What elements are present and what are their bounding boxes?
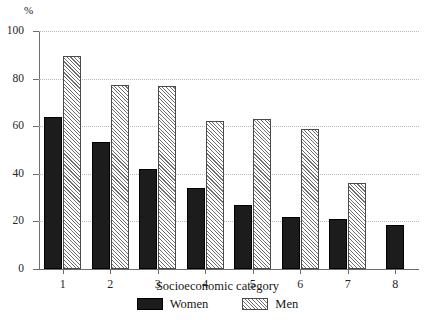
y-axis-tick-label: 60 [13, 119, 25, 132]
y-axis-tick: 60 [33, 126, 39, 127]
bar-women-7 [329, 219, 347, 269]
x-axis-tick [300, 269, 301, 274]
bar-women-6 [282, 217, 300, 269]
legend-swatch-men-icon [242, 298, 268, 310]
x-axis-tick [205, 269, 206, 274]
bar-women-3 [139, 169, 157, 269]
y-axis-tick: 20 [33, 221, 39, 222]
legend-label-men: Men [275, 297, 298, 311]
plot-area: 020406080100 12345678 [39, 31, 419, 270]
legend-entry-men: Men [242, 297, 298, 311]
bar-men-1 [63, 56, 81, 269]
x-axis-tick [110, 269, 111, 274]
bar-men-4 [206, 121, 224, 269]
bar-men-6 [301, 129, 319, 269]
x-axis-tick [63, 269, 64, 274]
x-axis-tick [253, 269, 254, 274]
bar-women-4 [187, 188, 205, 269]
bar-women-1 [44, 117, 62, 269]
chart-legend: Women Men [0, 297, 435, 311]
y-axis-tick: 80 [33, 79, 39, 80]
legend-swatch-women-icon [137, 298, 163, 310]
x-axis-tick [158, 269, 159, 274]
x-axis-tick [395, 269, 396, 274]
gridline [39, 31, 419, 32]
bar-women-5 [234, 205, 252, 269]
y-axis-tick: 100 [33, 31, 39, 32]
bar-women-2 [92, 142, 110, 269]
y-axis-tick-label: 80 [13, 72, 25, 85]
bar-women-8 [386, 225, 404, 269]
bar-men-3 [158, 86, 176, 269]
legend-entry-women: Women [137, 297, 209, 311]
y-axis-tick-label: 100 [7, 24, 24, 37]
x-axis-title: Socioeconomic category [0, 279, 435, 294]
gridline [39, 126, 419, 127]
y-axis-line [39, 31, 40, 270]
y-axis-tick: 40 [33, 174, 39, 175]
bar-men-2 [111, 85, 129, 269]
bar-men-5 [253, 119, 271, 269]
y-axis-tick: 0 [33, 269, 39, 270]
bar-chart: % 020406080100 12345678 Socioeconomic ca… [0, 0, 435, 320]
bar-men-7 [348, 183, 366, 269]
y-axis-unit-label: % [24, 4, 33, 16]
y-axis-tick-label: 0 [18, 262, 24, 275]
gridline [39, 79, 419, 80]
x-axis-line [39, 269, 419, 270]
legend-label-women: Women [170, 297, 209, 311]
y-axis-tick-label: 40 [13, 167, 25, 180]
y-axis-tick-label: 20 [13, 214, 25, 227]
x-axis-tick [348, 269, 349, 274]
